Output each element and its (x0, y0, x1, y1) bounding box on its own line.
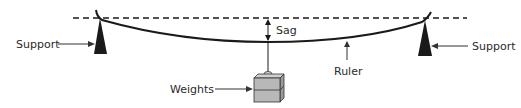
right-support-icon (418, 20, 432, 56)
left-support-icon (94, 18, 107, 54)
sag-label: Sag (276, 24, 297, 37)
ruler-label: Ruler (334, 65, 363, 78)
weights-icon (254, 72, 284, 103)
support-right-arrow-icon (431, 43, 438, 49)
ruler-sag-diagram: Support Support Sag Ruler Weights (0, 0, 521, 108)
support-right-label: Support (472, 40, 516, 53)
sag-arrow-head-up-icon (265, 19, 271, 25)
support-left-label: Support (16, 38, 60, 51)
sag-arrow-head-down-icon (265, 35, 271, 41)
support-left-arrow-icon (88, 41, 95, 47)
ruler-arrow-icon (344, 41, 350, 47)
weights-label: Weights (170, 83, 214, 96)
ruler-curve (96, 10, 431, 42)
weights-arrow-icon (246, 86, 253, 92)
